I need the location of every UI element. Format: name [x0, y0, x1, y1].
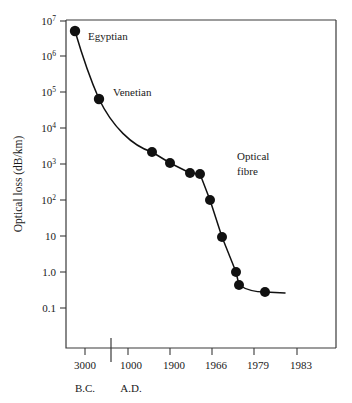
data-point — [185, 168, 195, 178]
data-point — [231, 267, 241, 277]
axis-lines — [66, 20, 336, 348]
data-point — [205, 195, 215, 205]
data-point — [147, 147, 157, 157]
annotation-venetian: Venetian — [113, 86, 152, 98]
y-tick-label: 106 — [41, 49, 56, 62]
y-tick-label: 104 — [41, 121, 56, 134]
y-axis-title: Optical loss (dB/km) — [12, 136, 25, 233]
x-tickmarks — [85, 348, 297, 355]
y-tick-label: 10 — [45, 230, 57, 242]
y-tick-label: 0.1 — [42, 302, 56, 314]
y-tick-label: 105 — [41, 85, 56, 98]
data-point — [260, 287, 270, 297]
data-point — [70, 26, 80, 36]
era-label-ad: A.D. — [120, 382, 142, 394]
y-tick-label: 102 — [41, 193, 56, 206]
x-tick-label: 1966 — [205, 359, 228, 371]
x-tick-label: 1979 — [247, 359, 270, 371]
data-curve — [75, 31, 285, 293]
data-point — [94, 94, 104, 104]
data-point — [234, 280, 244, 290]
x-tick-label: 1900 — [163, 359, 186, 371]
annotation-egyptian: Egyptian — [88, 30, 128, 42]
y-tick-labels: 107 106 105 104 103 102 10 1.0 0.1 — [41, 14, 56, 314]
annotation-optical-fibre-line1: Optical — [237, 150, 269, 162]
y-tickmarks — [60, 21, 66, 308]
y-tick-label: 103 — [41, 157, 56, 170]
era-label-bc: B.C. — [75, 382, 95, 394]
y-tick-label: 1.0 — [42, 266, 56, 278]
annotation-optical-fibre-line2: fibre — [237, 165, 258, 177]
data-point — [195, 169, 205, 179]
x-tick-label: 1000 — [120, 359, 143, 371]
plot-frame — [66, 20, 336, 348]
x-tick-label: 1983 — [290, 359, 313, 371]
data-point — [165, 158, 175, 168]
x-tick-labels: 3000 1000 1900 1966 1979 1983 — [74, 359, 313, 371]
x-tick-label: 3000 — [74, 359, 97, 371]
chart-figure: 107 106 105 104 103 102 10 1.0 0.1 Optic… — [0, 0, 352, 403]
data-point — [217, 232, 227, 242]
optical-loss-chart: 107 106 105 104 103 102 10 1.0 0.1 Optic… — [0, 0, 352, 403]
y-tick-label: 107 — [41, 14, 56, 27]
